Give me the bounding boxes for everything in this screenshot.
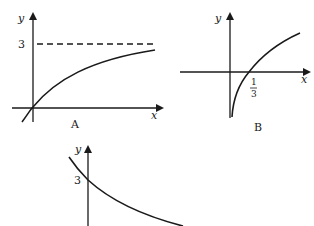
graph-b-intercept-fraction: 1 3	[250, 77, 257, 99]
graph-b-y-label: y	[214, 12, 222, 25]
graph-a-curve	[22, 50, 155, 122]
graph-b-x-label: x	[301, 73, 308, 86]
graph-c-y-label: y	[74, 143, 82, 156]
graph-b-caption: B	[254, 121, 262, 134]
graph-c-intercept-label: 3	[74, 174, 81, 187]
diagram-canvas: y 3 x A y x 1 3 B y 3	[0, 0, 314, 226]
graph-c: y 3	[69, 143, 183, 226]
graph-a-x-label: x	[151, 109, 158, 122]
graph-c-curve	[69, 157, 183, 226]
graph-b-curve	[232, 33, 300, 117]
graph-a-asymptote-label: 3	[18, 38, 25, 51]
graph-a: y 3 x A	[12, 12, 160, 131]
graph-a-y-label: y	[17, 12, 25, 25]
fraction-numerator: 1	[251, 77, 257, 87]
graph-b: y x 1 3 B	[180, 12, 308, 134]
graph-a-caption: A	[70, 118, 80, 131]
fraction-denominator: 3	[251, 89, 257, 99]
